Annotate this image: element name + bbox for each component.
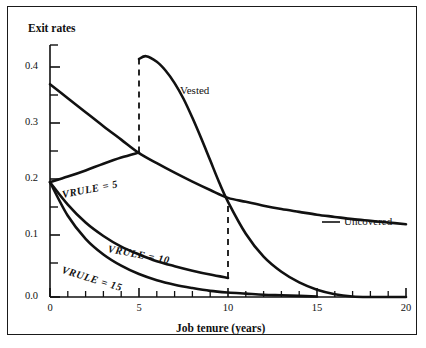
y-tick-label-0.2: 0.2 [14, 172, 38, 183]
y-tick-label-0.0: 0.0 [14, 290, 38, 301]
series-label-uncovered: Uncovered [344, 215, 392, 227]
figure-border [7, 6, 417, 335]
y-axis-title: Exit rates [28, 22, 76, 34]
y-tick-label-0.4: 0.4 [14, 60, 38, 71]
page-bleed-text [0, 0, 426, 5]
x-tick-label-15: 15 [305, 302, 329, 313]
y-tick-label-0.1: 0.1 [14, 228, 38, 239]
x-tick-label-5: 5 [127, 302, 151, 313]
x-tick-label-10: 10 [216, 302, 240, 313]
series-label-vested: Vested [180, 84, 209, 96]
figure-root: Exit rates Job tenure (years) 0.4 0.3 0.… [0, 0, 426, 348]
x-tick-label-20: 20 [394, 302, 418, 313]
x-axis-title: Job tenure (years) [176, 322, 265, 334]
x-tick-label-0: 0 [38, 302, 62, 313]
y-tick-label-0.3: 0.3 [14, 116, 38, 127]
